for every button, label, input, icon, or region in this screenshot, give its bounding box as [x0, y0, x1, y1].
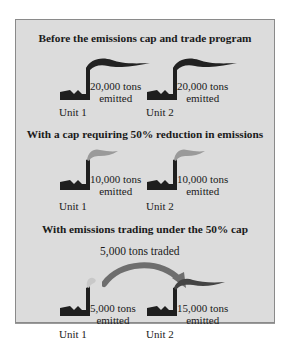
unit-1-label: Unit 1 [59, 106, 87, 118]
unit-1-emission-label: 20,000 tons emitted [90, 80, 141, 104]
section-1-title: Before the emissions cap and trade progr… [16, 32, 274, 44]
unit-2-label: Unit 2 [146, 106, 174, 118]
unit-2-emission-label: 15,000 tons emitted [177, 302, 228, 326]
unit-1-label: Unit 1 [59, 200, 87, 212]
trade-label: 5,000 tons traded [100, 245, 180, 257]
unit-2-label: Unit 2 [146, 200, 174, 212]
unit-2-label: Unit 2 [146, 328, 174, 340]
unit-1-emission-label: 5,000 tons emitted [90, 302, 136, 326]
unit-2-emission-label: 10,000 tons emitted [177, 173, 228, 197]
section-2-title: With a cap requiring 50% reduction in em… [16, 128, 274, 140]
emissions-trading-diagram: Before the emissions cap and trade progr… [15, 19, 275, 323]
unit-2-emission-label: 20,000 tons emitted [177, 80, 228, 104]
unit-1-label: Unit 1 [59, 328, 87, 340]
section-3-title: With emissions trading under the 50% cap [16, 223, 274, 235]
unit-1-emission-label: 10,000 tons emitted [90, 173, 141, 197]
